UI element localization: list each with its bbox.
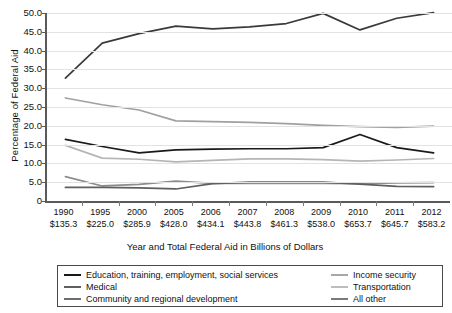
x-axis-tick — [155, 201, 156, 206]
x-axis-category: 2011$645.7 — [376, 206, 413, 231]
legend-column-right: Income securityTransportationAll other — [330, 269, 442, 305]
x-axis-tick — [192, 201, 193, 206]
x-axis-tick — [413, 201, 414, 206]
series-line — [65, 13, 433, 78]
x-axis-amount-label: $461.3 — [266, 218, 303, 231]
x-axis-year-label: 2009 — [303, 206, 340, 218]
x-axis-year-label: 2010 — [340, 206, 377, 218]
y-axis-tick — [42, 51, 47, 52]
legend-item[interactable]: Income security — [330, 269, 442, 281]
legend-item[interactable]: Transportation — [330, 281, 442, 293]
x-axis-category: 2010$653.7 — [340, 206, 377, 231]
y-axis-tick-label: 45.0 — [6, 27, 42, 37]
x-axis-category: 2008$461.3 — [266, 206, 303, 231]
y-axis-tick-label: 40.0 — [6, 46, 42, 56]
y-axis-tick — [42, 13, 47, 14]
y-axis-tick — [42, 88, 47, 89]
y-axis-tick-label: 35.0 — [6, 64, 42, 74]
x-axis-category: 2006$434.1 — [192, 206, 229, 231]
x-axis-category: 2007$443.8 — [229, 206, 266, 231]
x-axis-amount-label: $645.7 — [376, 218, 413, 231]
legend-column-left: Education, training, employment, social … — [63, 269, 331, 305]
x-axis-amount-label: $428.0 — [155, 218, 192, 231]
legend-swatch-icon — [331, 274, 348, 276]
gridline — [47, 88, 452, 89]
y-axis-tick-label: 50.0 — [6, 8, 42, 18]
legend-label: Community and regional development — [86, 293, 238, 305]
x-axis-tick — [229, 201, 230, 206]
y-axis-tick — [42, 69, 47, 70]
y-axis-tick — [42, 107, 47, 108]
legend-label: Transportation — [353, 281, 411, 293]
gridline — [47, 13, 452, 14]
legend-label: All other — [353, 293, 386, 305]
y-axis-tick-label: 15.0 — [6, 140, 42, 150]
legend-item[interactable]: Medical — [63, 281, 331, 293]
y-axis-tick — [42, 163, 47, 164]
y-axis-tick-label: 10.0 — [6, 158, 42, 168]
x-axis-tick — [119, 201, 120, 206]
legend-swatch-icon — [331, 298, 348, 300]
y-axis-tick-label: 5.0 — [6, 177, 42, 187]
y-axis-tick — [42, 32, 47, 33]
x-axis-amount-label: $443.8 — [229, 218, 266, 231]
x-axis-line — [45, 201, 450, 203]
y-axis-tick — [42, 145, 47, 146]
x-axis-amount-label: $538.0 — [303, 218, 340, 231]
x-axis-year-label: 2006 — [192, 206, 229, 218]
x-axis-amount-label: $434.1 — [192, 218, 229, 231]
x-axis-category: 2009$538.0 — [303, 206, 340, 231]
legend-swatch-icon — [64, 274, 81, 276]
series-line — [65, 98, 433, 127]
gridline — [47, 69, 452, 70]
x-axis-amount-label: $285.9 — [119, 218, 156, 231]
x-axis-year-label: 2007 — [229, 206, 266, 218]
x-axis-category: 2012$583.2 — [413, 206, 450, 231]
x-axis-tick — [303, 201, 304, 206]
y-axis-tick-label: 30.0 — [6, 83, 42, 93]
y-axis-tick-label: 25.0 — [6, 102, 42, 112]
y-axis-tick-label: 20.0 — [6, 121, 42, 131]
legend-label: Education, training, employment, social … — [86, 269, 278, 281]
x-axis-year-label: 2005 — [155, 206, 192, 218]
y-axis-tick — [42, 126, 47, 127]
legend-item[interactable]: All other — [330, 293, 442, 305]
legend: Education, training, employment, social … — [57, 265, 443, 307]
x-axis-year-label: 2008 — [266, 206, 303, 218]
legend-item[interactable]: Education, training, employment, social … — [63, 269, 331, 281]
x-axis-title: Year and Total Federal Aid in Billions o… — [0, 241, 450, 252]
legend-label: Medical — [86, 281, 117, 293]
x-axis-category: 1995$225.0 — [82, 206, 119, 231]
x-axis-tick — [266, 201, 267, 206]
gridline — [47, 163, 452, 164]
series-line — [65, 145, 433, 162]
y-axis-tick-labels: 05.010.015.020.025.030.035.040.045.050.0 — [6, 0, 42, 215]
x-axis-amount-label: $583.2 — [413, 218, 450, 231]
plot-area — [45, 13, 452, 201]
x-axis-category: 1990$135.3 — [45, 206, 82, 231]
legend-label: Income security — [353, 269, 416, 281]
gridline — [47, 126, 452, 127]
x-axis-year-label: 1995 — [82, 206, 119, 218]
legend-swatch-icon — [64, 286, 81, 288]
x-axis-amount-label: $653.7 — [340, 218, 377, 231]
x-axis-category: 2005$428.0 — [155, 206, 192, 231]
gridline — [47, 182, 452, 183]
y-axis-tick-label: 0 — [6, 196, 42, 206]
gridline — [47, 145, 452, 146]
x-axis-year-label: 1990 — [45, 206, 82, 218]
gridline — [47, 51, 452, 52]
x-axis-year-label: 2000 — [119, 206, 156, 218]
x-axis-category: 2000$285.9 — [119, 206, 156, 231]
gridline — [47, 32, 452, 33]
x-axis-year-label: 2012 — [413, 206, 450, 218]
legend-item[interactable]: Community and regional development — [63, 293, 331, 305]
x-axis-year-label: 2011 — [376, 206, 413, 218]
x-axis-tick — [340, 201, 341, 206]
gridline — [47, 107, 452, 108]
x-axis-amount-label: $225.0 — [82, 218, 119, 231]
legend-swatch-icon — [331, 286, 348, 288]
legend-swatch-icon — [64, 298, 81, 300]
x-axis-tick-labels: 1990$135.31995$225.02000$285.92005$428.0… — [45, 206, 450, 240]
